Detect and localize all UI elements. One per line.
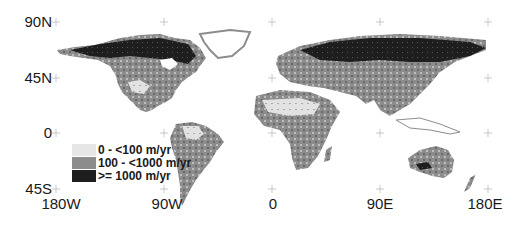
lat-label-0: 0 — [0, 125, 52, 140]
lat-label-45n: 45N — [0, 70, 52, 85]
landmass-greenland — [200, 30, 250, 58]
lon-label-0: 0 — [243, 196, 303, 211]
legend-item-mid: 100 - <1000 m/yr — [72, 156, 191, 169]
lon-label-90e: 90E — [350, 196, 410, 211]
continent-australia — [408, 146, 454, 178]
legend-item-low: 0 - <100 m/yr — [72, 143, 191, 156]
legend-label-mid: 100 - <1000 m/yr — [98, 157, 191, 169]
legend-label-high: >= 1000 m/yr — [98, 170, 171, 182]
landmass-madagascar — [324, 146, 332, 162]
legend-swatch-mid — [72, 157, 96, 169]
landmass-new-zealand — [464, 174, 476, 192]
world-map — [0, 0, 531, 228]
lat-label-90n: 90N — [0, 14, 52, 29]
legend-swatch-low — [72, 144, 96, 156]
legend-label-low: 0 - <100 m/yr — [98, 144, 171, 156]
lon-label-90w: 90W — [137, 196, 197, 211]
lat-label-45s: 45S — [0, 181, 52, 196]
legend-swatch-high — [72, 170, 96, 182]
legend-item-high: >= 1000 m/yr — [72, 169, 191, 182]
continent-north-america — [57, 34, 206, 112]
lon-label-180e: 180E — [455, 196, 515, 211]
lon-label-180w: 180W — [31, 196, 91, 211]
map-legend: 0 - <100 m/yr 100 - <1000 m/yr >= 1000 m… — [72, 143, 191, 182]
landmass-southeast-asia — [396, 118, 460, 134]
